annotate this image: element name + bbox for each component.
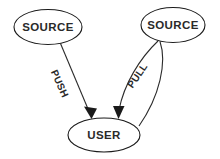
source-left-label: SOURCE xyxy=(22,21,74,33)
edge-label-push: PUSH xyxy=(49,68,71,99)
push-edge-line xyxy=(61,44,90,113)
source-right-label: SOURCE xyxy=(147,19,199,31)
diagram-svg: PUSH PULL SOURCE SOURCE USER xyxy=(0,0,220,159)
edge-return[interactable] xyxy=(139,42,163,127)
pull-arrowhead xyxy=(113,106,125,119)
diagram-canvas: PUSH PULL SOURCE SOURCE USER xyxy=(0,0,220,159)
edge-label-pull: PULL xyxy=(125,61,149,90)
push-arrowhead xyxy=(84,107,97,120)
user-label: USER xyxy=(87,129,121,141)
edge-pull[interactable]: PULL xyxy=(113,41,158,119)
return-edge-curve xyxy=(139,42,163,127)
node-user[interactable]: USER xyxy=(68,118,140,152)
node-source-left[interactable]: SOURCE xyxy=(14,10,82,45)
node-source-right[interactable]: SOURCE xyxy=(141,8,205,43)
edge-push[interactable]: PUSH xyxy=(49,44,97,120)
